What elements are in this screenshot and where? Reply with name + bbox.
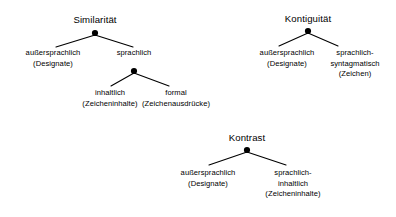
node-label-sim-inhaltlich-line2: (Zeicheninhalte) [82, 99, 137, 110]
node-label-kontr-inhaltlich-line3: (Zeicheninhalte) [265, 189, 320, 200]
node-label-similaritaet-line1: Similarität [73, 14, 116, 26]
node-label-kontr-inhaltlich-line1: sprachlich- [265, 168, 320, 179]
node-label-sim-formal: formal (Zeichenausdrücke) [142, 88, 210, 109]
node-dot-kontiguitaet [305, 28, 311, 34]
node-label-sim-aussersprachlich-line2: (Designate) [26, 59, 81, 70]
node-label-kontr-inhaltlich: sprachlich- inhaltlich (Zeicheninhalte) [265, 168, 320, 200]
node-label-kontr-aussersprachlich-line1: außersprachlich [181, 168, 236, 179]
edge-sprachlich-to-formal [134, 73, 169, 86]
node-label-kontrast-line1: Kontrast [229, 132, 266, 144]
edge-sprachlich-to-inhaltlich [111, 73, 134, 86]
node-label-sim-sprachlich-line1: sprachlich [117, 48, 152, 59]
node-dot-sprachlich [131, 68, 137, 74]
edge-kontiguitaet-to-aussersprachlich [279, 33, 308, 46]
tree-kontrast-edges [209, 147, 286, 165]
node-label-sim-aussersprachlich: außersprachlich (Designate) [26, 48, 81, 69]
edge-similaritaet-to-aussersprachlich [56, 35, 95, 47]
node-label-kont-aussersprachlich: außersprachlich (Designate) [260, 48, 315, 69]
node-dot-similaritaet [92, 30, 98, 36]
node-label-kontiguitaet-line1: Kontiguität [285, 13, 331, 25]
node-label-sim-formal-line1: formal [142, 88, 210, 99]
node-label-kont-syntagmatisch-line2: syntagmatisch [330, 59, 379, 70]
edge-kontrast-to-aussersprachlich [209, 152, 247, 165]
node-label-kont-syntagmatisch-line3: (Zeichen) [330, 69, 379, 80]
node-label-similaritaet: Similarität [73, 14, 116, 26]
node-label-sim-sprachlich: sprachlich [117, 48, 152, 59]
tree-kontiguitaet-edges [279, 28, 338, 46]
node-label-kont-syntagmatisch-line1: sprachlich- [330, 48, 379, 59]
tree-diagram-canvas: Similarität außersprachlich (Designate) … [0, 0, 396, 217]
node-dot-kontrast [244, 147, 250, 153]
node-label-kontrast: Kontrast [229, 132, 266, 144]
node-label-sim-aussersprachlich-line1: außersprachlich [26, 48, 81, 59]
edge-similaritaet-to-sprachlich [95, 35, 133, 47]
edge-kontiguitaet-to-syntagmatisch [308, 33, 338, 46]
edge-kontrast-to-inhaltlich [247, 152, 286, 165]
node-label-kontr-aussersprachlich: außersprachlich (Designate) [181, 168, 236, 189]
node-label-sim-formal-line2: (Zeichenausdrücke) [142, 99, 210, 110]
node-label-kont-aussersprachlich-line1: außersprachlich [260, 48, 315, 59]
node-label-kontiguitaet: Kontiguität [285, 13, 331, 25]
node-label-kontr-aussersprachlich-line2: (Designate) [181, 179, 236, 190]
node-label-kont-syntagmatisch: sprachlich- syntagmatisch (Zeichen) [330, 48, 379, 80]
node-label-kont-aussersprachlich-line2: (Designate) [260, 59, 315, 70]
node-label-sim-inhaltlich-line1: inhaltlich [82, 88, 137, 99]
node-label-kontr-inhaltlich-line2: inhaltlich [265, 179, 320, 190]
node-label-sim-inhaltlich: inhaltlich (Zeicheninhalte) [82, 88, 137, 109]
